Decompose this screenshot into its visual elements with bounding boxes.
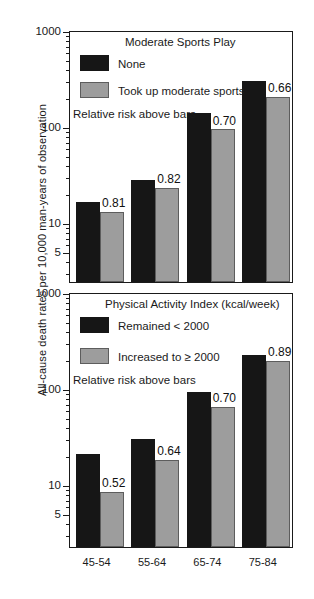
- y-axis-minor-tick: [66, 36, 70, 37]
- y-axis-minor-tick: [66, 233, 70, 234]
- legend-swatch-none: [80, 55, 109, 71]
- y-axis-minor-tick: [66, 61, 70, 62]
- x-axis-label-55-64: 55-64: [124, 556, 179, 568]
- relative-risk-label: 0.66: [268, 82, 291, 94]
- bar: [76, 454, 100, 547]
- bar: [242, 355, 266, 547]
- relative-risk-label: 0.64: [157, 445, 180, 457]
- y-axis-minor-tick: [66, 274, 70, 275]
- y-axis-tick: [63, 390, 70, 391]
- x-axis-label-75-84: 75-84: [235, 556, 290, 568]
- y-axis-tick-label: 10: [48, 218, 61, 230]
- legend-note-bottom: Relative risk above bars: [73, 374, 196, 386]
- y-axis-minor-tick: [66, 315, 70, 316]
- bar: [187, 392, 211, 547]
- legend-label-remained-low: Remained < 2000: [118, 320, 209, 332]
- x-axis-category-labels: 45-5455-6465-7475-84: [69, 556, 293, 572]
- bar: [242, 81, 266, 282]
- y-axis-minor-tick: [66, 524, 70, 525]
- y-axis-tick: [63, 32, 70, 33]
- y-axis-tick: [63, 294, 70, 295]
- y-axis-minor-tick: [66, 149, 70, 150]
- y-axis-minor-tick: [66, 457, 70, 458]
- bar: [155, 460, 179, 547]
- legend-swatch-took-up-sports: [80, 82, 109, 98]
- y-axis-minor-tick: [66, 501, 70, 502]
- y-axis-minor-tick: [66, 262, 70, 263]
- y-axis-minor-tick: [66, 394, 70, 395]
- legend-title-bottom: Physical Activity Index (kcal/week): [105, 298, 279, 310]
- relative-risk-label: 0.70: [213, 392, 236, 404]
- y-axis-minor-tick: [66, 53, 70, 54]
- y-axis-minor-tick: [66, 440, 70, 441]
- y-axis-tick: [63, 515, 70, 516]
- bar: [266, 361, 290, 547]
- y-axis-tick-label: 5: [55, 509, 61, 521]
- y-axis-minor-tick: [66, 507, 70, 508]
- y-axis-tick: [63, 128, 70, 129]
- y-axis-minor-tick: [66, 411, 70, 412]
- legend-swatch-increased-high: [80, 348, 109, 364]
- bar: [76, 202, 100, 282]
- legend-label-increased-high: Increased to ≥ 2000: [118, 351, 220, 363]
- y-axis-minor-tick: [66, 137, 70, 138]
- y-axis-tick-label: 10: [48, 480, 61, 492]
- y-axis-minor-tick: [66, 405, 70, 406]
- y-axis-minor-tick: [66, 157, 70, 158]
- legend-swatch-remained-low: [80, 317, 109, 333]
- y-axis-minor-tick: [66, 132, 70, 133]
- legend-title-top: Moderate Sports Play: [125, 36, 236, 48]
- bar: [155, 188, 179, 282]
- y-axis-minor-tick: [66, 245, 70, 246]
- bar: [187, 113, 211, 282]
- x-axis-label-65-74: 65-74: [180, 556, 235, 568]
- y-axis-tick: [63, 253, 70, 254]
- bar: [100, 492, 124, 547]
- legend-label-none: None: [118, 58, 146, 70]
- y-axis-minor-tick: [66, 228, 70, 229]
- bar: [131, 180, 155, 282]
- bar: [211, 129, 235, 282]
- y-axis-tick-label: 5: [55, 247, 61, 259]
- y-axis-tick: [63, 224, 70, 225]
- y-axis-tick-label: 1000: [35, 26, 61, 38]
- y-axis-tick-label: 100: [42, 122, 61, 134]
- relative-risk-label: 0.70: [213, 115, 236, 127]
- y-axis-title: All-cause death rates per 10,000 man-yea…: [36, 116, 52, 396]
- y-axis-minor-tick: [66, 70, 70, 71]
- chart-panel-top: 10001001050.810.820.700.66 Moderate Spor…: [69, 31, 293, 283]
- bar: [100, 212, 124, 282]
- y-axis-minor-tick: [66, 309, 70, 310]
- y-axis-minor-tick: [66, 332, 70, 333]
- y-axis-minor-tick: [66, 495, 70, 496]
- y-axis-minor-tick: [66, 536, 70, 537]
- y-axis-minor-tick: [66, 490, 70, 491]
- y-axis-minor-tick: [66, 47, 70, 48]
- y-axis-minor-tick: [66, 323, 70, 324]
- legend-note-top: Relative risk above bars: [73, 108, 196, 120]
- y-axis-minor-tick: [66, 428, 70, 429]
- y-axis-minor-tick: [66, 178, 70, 179]
- y-axis-minor-tick: [66, 344, 70, 345]
- y-axis-tick-label: 1000: [35, 288, 61, 300]
- y-axis-minor-tick: [66, 195, 70, 196]
- y-axis-minor-tick: [66, 361, 70, 362]
- y-axis-minor-tick: [66, 82, 70, 83]
- y-axis-tick: [63, 486, 70, 487]
- figure: All-cause death rates per 10,000 man-yea…: [0, 0, 314, 599]
- bar: [266, 97, 290, 283]
- y-axis-minor-tick: [66, 99, 70, 100]
- bar: [211, 407, 235, 547]
- relative-risk-label: 0.81: [102, 197, 125, 209]
- y-axis-tick-label: 100: [42, 384, 61, 396]
- x-axis-label-45-54: 45-54: [69, 556, 124, 568]
- y-axis-minor-tick: [66, 298, 70, 299]
- y-axis-minor-tick: [66, 239, 70, 240]
- relative-risk-label: 0.82: [157, 173, 180, 185]
- relative-risk-label: 0.89: [268, 346, 291, 358]
- y-axis-minor-tick: [66, 303, 70, 304]
- y-axis-minor-tick: [66, 419, 70, 420]
- bar: [131, 439, 155, 547]
- relative-risk-label: 0.52: [102, 477, 125, 489]
- y-axis-minor-tick: [66, 166, 70, 167]
